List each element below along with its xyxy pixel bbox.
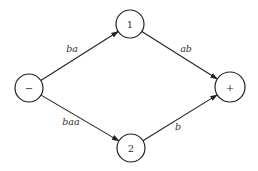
edge-line bbox=[41, 95, 119, 141]
node-label: + bbox=[226, 82, 234, 93]
edge-1-to-plus: ab bbox=[142, 32, 218, 80]
edge-label: ba bbox=[66, 43, 78, 54]
state-diagram: ba ab baa b − 1 2 + bbox=[0, 0, 258, 171]
node-label: 1 bbox=[127, 19, 133, 30]
node-2: 2 bbox=[117, 134, 145, 162]
edge-line bbox=[142, 32, 218, 80]
edge-label: b bbox=[175, 121, 181, 132]
node-label: − bbox=[25, 83, 33, 94]
edge-minus-to-2: baa bbox=[41, 95, 119, 141]
node-label: 2 bbox=[128, 143, 134, 154]
node-plus-accept: + bbox=[215, 72, 245, 102]
edge-2-to-plus: b bbox=[143, 95, 217, 141]
edge-label: ab bbox=[180, 43, 192, 54]
edge-minus-to-1: ba bbox=[41, 32, 118, 81]
node-minus-start: − bbox=[15, 74, 43, 102]
edge-line bbox=[143, 95, 217, 141]
edge-label: baa bbox=[62, 116, 80, 127]
edge-line bbox=[41, 32, 118, 81]
node-1: 1 bbox=[116, 10, 144, 38]
